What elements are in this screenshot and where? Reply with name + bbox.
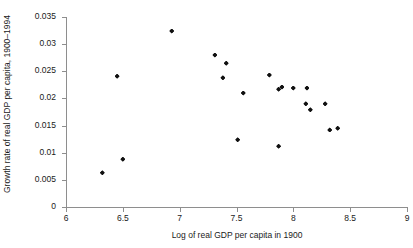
data-point <box>220 75 225 80</box>
x-axis-title-text: Log of real GDP per capita in 1900 <box>172 230 303 240</box>
data-point <box>212 53 217 58</box>
y-tick-label: 0.005 <box>0 175 63 184</box>
data-point <box>291 86 296 91</box>
x-tick-label: 7.5 <box>231 214 243 223</box>
x-tick-mark <box>123 208 124 212</box>
plot-area <box>66 17 407 207</box>
data-point <box>276 144 281 149</box>
data-point <box>235 137 240 142</box>
scatter-plot-figure: Growth rate of real GDP per capita, 1900… <box>0 0 413 248</box>
x-tick-mark <box>180 208 181 212</box>
data-point <box>169 29 174 34</box>
x-tick-mark <box>350 208 351 212</box>
y-tick-label: 0.015 <box>0 121 63 130</box>
x-tick-mark <box>66 208 67 212</box>
x-tick-label: 7 <box>177 214 182 223</box>
data-point <box>115 74 120 79</box>
data-point <box>100 170 105 175</box>
x-tick-label: 6 <box>64 214 69 223</box>
data-point <box>327 127 332 132</box>
x-tick-mark <box>237 208 238 212</box>
data-point <box>303 101 308 106</box>
y-tick-label: 0 <box>0 202 63 211</box>
x-tick-mark <box>293 208 294 212</box>
data-point <box>120 157 125 162</box>
data-point <box>241 91 246 96</box>
data-point <box>224 61 229 66</box>
x-tick-label: 9 <box>405 214 410 223</box>
data-point <box>335 126 340 131</box>
y-tick-label: 0.035 <box>0 12 63 21</box>
x-axis-title: Log of real GDP per capita in 1900 <box>66 230 408 240</box>
y-tick-label: 0.025 <box>0 66 63 75</box>
data-point <box>323 101 328 106</box>
data-point <box>308 107 313 112</box>
x-tick-label: 6.5 <box>117 214 129 223</box>
y-tick-label: 0.03 <box>0 39 63 48</box>
y-tick-label: 0.02 <box>0 93 63 102</box>
data-point <box>304 86 309 91</box>
y-tick-label: 0.01 <box>0 148 63 157</box>
data-point <box>267 73 272 78</box>
x-tick-label: 8 <box>291 214 296 223</box>
x-tick-mark <box>407 208 408 212</box>
x-tick-label: 8.5 <box>344 214 356 223</box>
